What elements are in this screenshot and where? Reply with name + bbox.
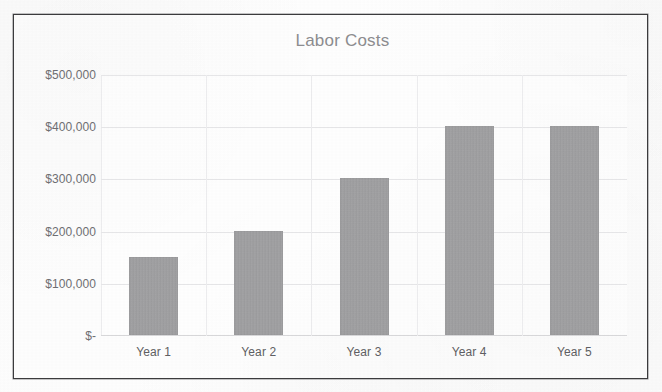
bar — [234, 231, 283, 335]
y-axis-tick-label: $400,000 — [45, 120, 96, 134]
x-axis-baseline — [101, 335, 627, 336]
gridline-vertical — [206, 75, 207, 336]
chart-screenshot: Labor Costs $500,000$400,000$300,000$200… — [0, 0, 662, 392]
gridline-vertical — [311, 75, 312, 336]
bar — [445, 126, 494, 335]
bar — [550, 126, 599, 335]
plot-area — [101, 75, 627, 336]
y-axis-tick-label: $- — [85, 329, 96, 343]
y-axis-tick-label: $300,000 — [45, 172, 96, 186]
x-axis-category-label: Year 4 — [417, 345, 522, 359]
y-axis-tick-label: $200,000 — [45, 225, 96, 239]
y-axis-tick-label: $500,000 — [45, 68, 96, 82]
y-axis-tick-labels: $500,000$400,000$300,000$200,000$100,000… — [14, 15, 96, 378]
x-axis-category-label: Year 3 — [311, 345, 416, 359]
chart-title: Labor Costs — [14, 31, 647, 51]
chart-border-frame: Labor Costs $500,000$400,000$300,000$200… — [13, 14, 648, 379]
gridline-horizontal — [101, 75, 627, 76]
bar — [340, 178, 389, 335]
gridline-vertical — [417, 75, 418, 336]
gridline-vertical — [522, 75, 523, 336]
chart-title-text: Labor Costs — [296, 31, 390, 50]
x-axis-category-label: Year 1 — [101, 345, 206, 359]
bar — [129, 257, 178, 335]
gridline-horizontal — [101, 127, 627, 128]
x-axis-category-label: Year 5 — [522, 345, 627, 359]
x-axis-category-label: Year 2 — [206, 345, 311, 359]
y-axis-tick-label: $100,000 — [45, 277, 96, 291]
plot-left-edge — [101, 75, 102, 336]
